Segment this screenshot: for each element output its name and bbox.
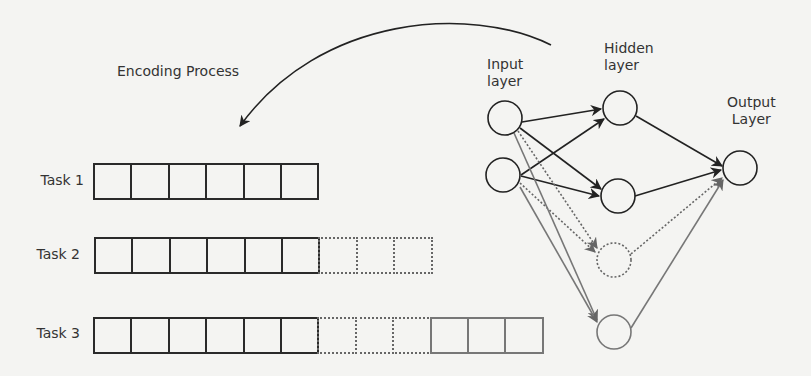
input-node-1 [488, 101, 522, 135]
hidden-node-1 [603, 91, 637, 125]
input-node-2 [486, 158, 520, 192]
neural-network-diagram [0, 0, 811, 376]
output-node [723, 151, 757, 185]
hidden-node-2 [601, 179, 635, 213]
hidden-node-gray [597, 315, 631, 349]
hidden-node-dotted [597, 243, 631, 277]
edges-gray [514, 133, 723, 328]
